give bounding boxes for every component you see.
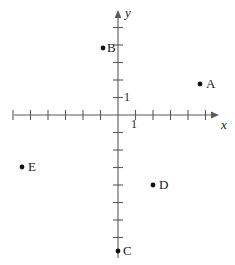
x-unit-label: 1	[131, 118, 137, 130]
y-axis-label: y	[125, 6, 131, 19]
data-point-D	[151, 183, 156, 188]
point-label-C: C	[123, 244, 132, 257]
data-point-B	[101, 46, 106, 51]
point-label-B: B	[107, 41, 116, 54]
data-point-C	[116, 249, 121, 254]
coordinate-plane: y x 1 1 A B C D E	[0, 0, 235, 265]
point-label-D: D	[159, 178, 168, 191]
y-axis-arrow-icon	[115, 10, 122, 18]
data-point-A	[198, 82, 203, 87]
y-unit-label: 1	[124, 91, 130, 103]
x-axis-arrow-icon	[211, 112, 219, 119]
x-axis-label: x	[221, 118, 227, 131]
data-point-E	[20, 165, 25, 170]
axes-and-points-canvas	[0, 0, 235, 265]
point-label-E: E	[28, 160, 36, 173]
point-label-A: A	[206, 77, 215, 90]
